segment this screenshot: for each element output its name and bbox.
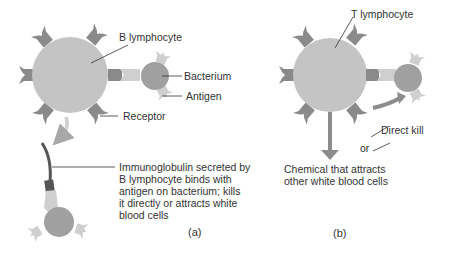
bacterium-label: Bacterium <box>184 70 231 82</box>
t-lymphocyte-group <box>279 17 426 160</box>
direct-kill-arrow-icon <box>373 98 400 108</box>
t-lymphocyte-label: T lymphocyte <box>351 8 413 20</box>
caption-a: (a) <box>188 226 201 238</box>
or-label: or <box>360 142 369 154</box>
direct-kill-label: Direct kill <box>381 124 424 136</box>
t-lymphocyte-cell <box>293 38 367 112</box>
chemical-description: Chemical that attracts other white blood… <box>284 163 388 187</box>
b-lymphocyte-label: B lymphocyte <box>119 31 182 43</box>
bound-bacterium <box>26 207 89 242</box>
immunoglobulin-description: Immunoglobulin secreted by B lymphocyte … <box>119 161 250 221</box>
chemical-arrow-icon <box>328 112 332 152</box>
receptor-label: Receptor <box>123 110 166 122</box>
immunoglobulin-strand <box>42 143 50 182</box>
antigen-label: Antigen <box>186 90 222 102</box>
secretion-arrow-icon <box>60 117 67 138</box>
caption-b: (b) <box>333 227 346 239</box>
b-lymphocyte-cell <box>32 37 108 113</box>
